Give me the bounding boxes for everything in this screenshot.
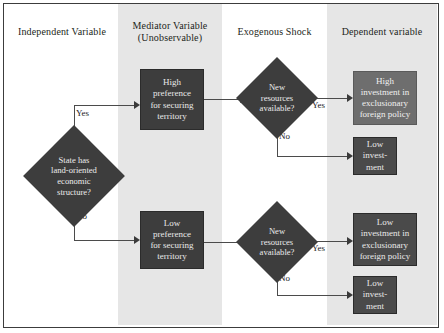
node-high-preference[interactable]: High preference for securing territory bbox=[140, 69, 204, 130]
node-high-investment-line1: High bbox=[360, 76, 411, 87]
edge-label-state-yes: Yes bbox=[76, 108, 89, 118]
decision-state-land-oriented[interactable]: State has land-oriented economic structu… bbox=[38, 140, 110, 212]
node-high-investment-label: High investment in exclusionary foreign … bbox=[360, 76, 411, 121]
column-header-independent-variable: Independent Variable bbox=[8, 26, 116, 38]
decision-resources-top-line2: resources bbox=[260, 93, 295, 104]
column-header-dependent-variable: Dependent variable bbox=[329, 26, 435, 38]
node-low-investment-top-line2: invest- bbox=[363, 150, 388, 161]
node-high-preference-line2: preference bbox=[150, 88, 193, 99]
node-low-investment-bottom-line3: ment bbox=[363, 301, 388, 312]
node-low-investment-excl-line4: foreign policy bbox=[360, 251, 411, 262]
decision-state-line2: land-oriented bbox=[51, 165, 97, 176]
column-band-mediator bbox=[118, 4, 222, 325]
node-low-investment-top-line1: Low bbox=[363, 139, 388, 150]
node-high-preference-label: High preference for securing territory bbox=[150, 77, 193, 122]
node-high-preference-line4: territory bbox=[150, 111, 193, 122]
node-high-investment-line4: foreign policy bbox=[360, 109, 411, 120]
decision-state-label: State has land-oriented economic structu… bbox=[38, 140, 110, 212]
node-low-preference-line2: preference bbox=[150, 229, 193, 240]
node-low-preference[interactable]: Low preference for securing territory bbox=[140, 211, 204, 269]
decision-resources-top-line1: New bbox=[260, 82, 295, 93]
column-header-exogenous-shock: Exogenous Shock bbox=[224, 26, 325, 38]
node-low-investment-excl-line2: investment in bbox=[360, 228, 411, 239]
node-low-investment-exclusionary[interactable]: Low investment in exclusionary foreign p… bbox=[353, 213, 417, 266]
node-low-investment-top[interactable]: Low invest- ment bbox=[353, 137, 397, 175]
decision-new-resources-top[interactable]: New resources available? bbox=[248, 69, 306, 127]
node-low-preference-line1: Low bbox=[150, 218, 193, 229]
decision-resources-bottom-line2: resources bbox=[260, 237, 295, 248]
node-low-investment-excl-line3: exclusionary bbox=[360, 240, 411, 251]
decision-new-resources-bottom[interactable]: New resources available? bbox=[248, 213, 306, 271]
node-low-preference-line4: territory bbox=[150, 251, 193, 262]
node-low-preference-line3: for securing bbox=[150, 240, 193, 251]
decision-state-line1: State has bbox=[51, 155, 97, 166]
decision-new-resources-top-label: New resources available? bbox=[248, 69, 306, 127]
node-low-investment-excl-line1: Low bbox=[360, 217, 411, 228]
edge-res-top-no-horizontal bbox=[277, 156, 351, 157]
flowchart-figure: Independent Variable Mediator Variable (… bbox=[0, 0, 444, 333]
column-header-mediator-variable: Mediator Variable (Unobservable) bbox=[120, 20, 220, 44]
decision-new-resources-bottom-label: New resources available? bbox=[248, 213, 306, 271]
decision-state-line4: structure? bbox=[51, 187, 97, 198]
node-high-investment-exclusionary[interactable]: High investment in exclusionary foreign … bbox=[353, 71, 417, 125]
decision-resources-top-line3: available? bbox=[260, 103, 295, 114]
node-high-preference-line1: High bbox=[150, 77, 193, 88]
column-header-mediator-line1: Mediator Variable bbox=[120, 20, 220, 32]
node-low-investment-top-label: Low invest- ment bbox=[363, 139, 388, 173]
node-low-investment-bottom-line1: Low bbox=[363, 278, 388, 289]
node-low-investment-bottom[interactable]: Low invest- ment bbox=[353, 276, 397, 314]
node-low-investment-bottom-line2: invest- bbox=[363, 289, 388, 300]
edge-state-yes-horizontal bbox=[74, 105, 136, 106]
node-high-investment-line3: exclusionary bbox=[360, 98, 411, 109]
node-low-investment-top-line3: ment bbox=[363, 162, 388, 173]
node-high-preference-line3: for securing bbox=[150, 100, 193, 111]
node-low-investment-excl-label: Low investment in exclusionary foreign p… bbox=[360, 217, 411, 262]
node-low-investment-bottom-label: Low invest- ment bbox=[363, 278, 388, 312]
decision-resources-bottom-line1: New bbox=[260, 226, 295, 237]
node-high-investment-line2: investment in bbox=[360, 87, 411, 98]
decision-state-line3: economic bbox=[51, 176, 97, 187]
edge-res-bot-no-horizontal bbox=[277, 295, 351, 296]
decision-resources-bottom-line3: available? bbox=[260, 247, 295, 258]
column-header-mediator-line2: (Unobservable) bbox=[120, 32, 220, 44]
node-low-preference-label: Low preference for securing territory bbox=[150, 218, 193, 263]
edge-state-no-horizontal bbox=[74, 240, 136, 241]
